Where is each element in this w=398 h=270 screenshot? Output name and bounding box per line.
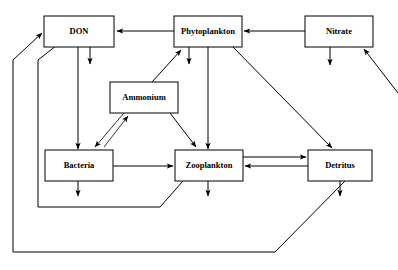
node-ammonium-label: Ammonium [122, 92, 165, 102]
edge-external-to-nitrate [364, 49, 398, 93]
node-don-label: DON [70, 26, 90, 36]
diagram-canvas: DON Phytoplankton Nitrate Ammonium Bacte… [0, 0, 398, 270]
node-bacteria[interactable]: Bacteria [45, 150, 113, 181]
node-detritus-label: Detritus [325, 160, 355, 170]
node-ammonium[interactable]: Ammonium [110, 82, 178, 113]
node-detritus[interactable]: Detritus [308, 150, 372, 181]
edge-ammonium-to-bacteria [95, 113, 124, 147]
edges-layer [13, 31, 398, 252]
node-zooplankton-label: Zooplankton [186, 160, 233, 170]
edge-ammonium-to-phytoplankton [152, 50, 181, 82]
node-bacteria-label: Bacteria [64, 160, 95, 170]
edge-phytoplankton-to-detritus [233, 47, 332, 148]
edge-bacteria-to-ammonium [104, 116, 128, 147]
edge-zooplankton-to-don-loop [38, 42, 183, 207]
node-phytoplankton[interactable]: Phytoplankton [174, 16, 242, 47]
ecosystem-flow-diagram: DON Phytoplankton Nitrate Ammonium Bacte… [0, 0, 398, 270]
edge-detritus-to-don-loop [13, 33, 345, 252]
node-don[interactable]: DON [44, 16, 114, 47]
node-zooplankton[interactable]: Zooplankton [175, 150, 243, 181]
node-nitrate-label: Nitrate [326, 26, 352, 36]
edge-ammonium-to-zooplankton [170, 113, 196, 147]
node-nitrate[interactable]: Nitrate [305, 16, 373, 47]
node-phytoplankton-label: Phytoplankton [181, 26, 235, 36]
